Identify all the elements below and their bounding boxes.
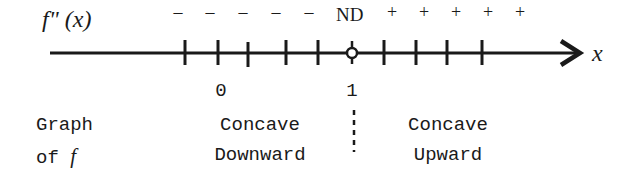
graph-label-line2: of f (36, 144, 76, 169)
graph-label-prefix: of (36, 147, 70, 169)
critical-label-0: 0 (215, 80, 226, 102)
critical-label-1: 1 (346, 80, 357, 102)
graph-label-variable: f (70, 144, 76, 168)
graph-label-line1: Graph (36, 114, 93, 136)
number-line (0, 0, 636, 174)
open-circle-icon (347, 48, 357, 58)
interval-left-line1: Concave (220, 114, 300, 136)
axis-variable-label: x (592, 40, 603, 67)
interval-right-line2: Upward (414, 144, 482, 166)
interval-right-line1: Concave (408, 114, 488, 136)
interval-left-line2: Downward (214, 144, 305, 166)
